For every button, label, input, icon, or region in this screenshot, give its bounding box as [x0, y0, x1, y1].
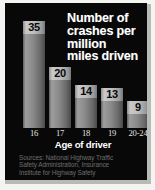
bar-19: 13	[101, 88, 123, 128]
chart-image: Number of crashes per million miles driv…	[0, 0, 155, 190]
bar-18: 14	[75, 85, 97, 128]
x-tick-20-24: 20-24	[122, 128, 147, 139]
source-note-line-2: Safety Administration, Insurance	[19, 161, 137, 168]
bar-value-19: 13	[101, 88, 123, 101]
bar-value-17: 20	[49, 67, 71, 80]
source-note-line-3: Institute for Highway Safety	[19, 169, 137, 176]
x-axis: 16 17 18 19 20-24	[19, 128, 147, 139]
source-note-line-1: Sources: National Highway Traffic	[19, 154, 137, 161]
plot-area: 35 20 14 13	[19, 15, 147, 128]
x-axis-label: Age of driver	[19, 139, 147, 150]
bar-value-20-24: 9	[127, 101, 147, 114]
source-note: Sources: National Highway Traffic Safety…	[19, 154, 137, 176]
chart-panel: Number of crashes per million miles driv…	[5, 3, 147, 180]
bar-16: 35	[23, 21, 45, 128]
bar-20-24: 9	[127, 101, 147, 128]
bar-17: 20	[49, 67, 71, 128]
bar-value-18: 14	[75, 85, 97, 98]
bar-value-16: 35	[23, 21, 45, 34]
